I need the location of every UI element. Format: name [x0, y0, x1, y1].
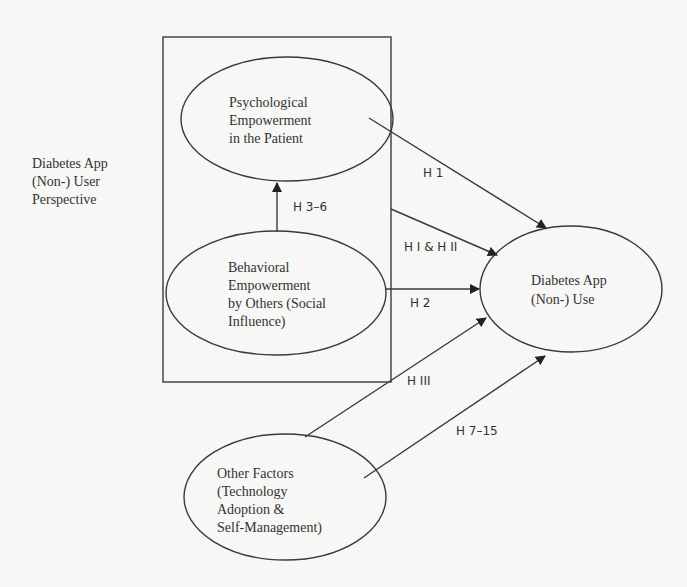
svg-text:Other Factors: Other Factors	[217, 466, 294, 481]
svg-text:Psychological: Psychological	[229, 95, 308, 110]
svg-text:(Non-) Use: (Non-) Use	[531, 292, 594, 308]
edge-label-hI-hII: H I & H II	[404, 240, 457, 254]
node-other-factors: Other Factors (Technology Adoption & Sel…	[184, 434, 386, 560]
edge-label-h7-15: H 7–15	[456, 424, 498, 438]
svg-text:Perspective: Perspective	[32, 192, 97, 207]
svg-text:(Non-) User: (Non-) User	[32, 174, 100, 190]
edge-label-h2: H 2	[410, 296, 430, 310]
svg-text:Empowerment: Empowerment	[228, 278, 311, 293]
svg-text:Diabetes App: Diabetes App	[531, 273, 607, 288]
edge-label-h1: H 1	[423, 166, 443, 180]
svg-text:Diabetes App: Diabetes App	[32, 156, 108, 171]
svg-text:in the Patient: in the Patient	[229, 131, 303, 146]
perspective-label: Diabetes App (Non-) User Perspective	[32, 156, 108, 207]
research-model-diagram: Diabetes App (Non-) User Perspective Psy…	[0, 0, 687, 587]
node-diabetes-app-use: Diabetes App (Non-) Use	[480, 226, 662, 352]
node-behavioral-empowerment: Behavioral Empowerment by Others (Social…	[166, 231, 386, 355]
edge-label-h3-6: H 3–6	[293, 200, 327, 214]
node-psychological-empowerment: Psychological Empowerment in the Patient	[181, 57, 393, 181]
svg-text:Adoption &: Adoption &	[217, 502, 284, 517]
edge-label-hIII: H III	[407, 374, 430, 388]
svg-text:Empowerment: Empowerment	[229, 113, 312, 128]
arrow-hIII	[305, 318, 486, 437]
svg-text:Self-Management): Self-Management)	[217, 520, 322, 536]
svg-text:Behavioral: Behavioral	[228, 260, 290, 275]
svg-text:Influence): Influence)	[228, 314, 286, 330]
svg-text:by Others (Social: by Others (Social	[228, 296, 326, 312]
svg-text:(Technology: (Technology	[217, 484, 288, 500]
